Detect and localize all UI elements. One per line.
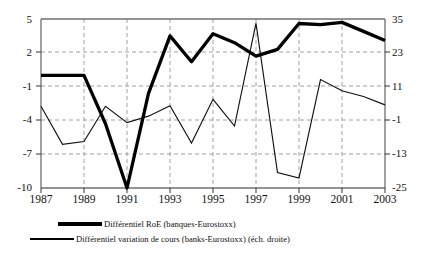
legend-swatch-thick-icon [58, 222, 102, 225]
axis-ticks [36, 52, 390, 193]
legend-label-roe: Différentiel RoE (banques-Eurostoxx) [104, 219, 236, 229]
chart-figure: 5 2 -1 -4 -7 -10 35 23 11 -1 -13 -25 198… [0, 0, 435, 263]
legend-swatch-thin-icon [30, 238, 74, 239]
legend-item-roe: Différentiel RoE (banques-Eurostoxx) [58, 219, 290, 229]
legend: Différentiel RoE (banques-Eurostoxx) Dif… [58, 219, 290, 244]
grid-lines [41, 19, 385, 188]
legend-label-variation: Différentiel variation de cours (banks-E… [76, 234, 290, 244]
legend-item-variation: Différentiel variation de cours (banks-E… [30, 234, 290, 244]
